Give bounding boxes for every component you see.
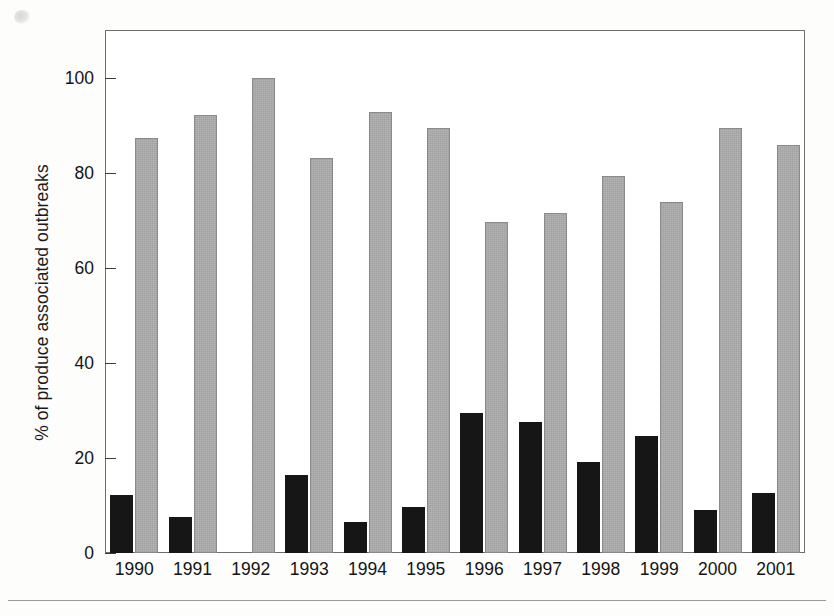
bar-light-2000 bbox=[719, 128, 742, 553]
bar-dark-1996 bbox=[460, 413, 483, 553]
bar-light-1992 bbox=[252, 78, 275, 553]
x-axis-label-1993: 1993 bbox=[277, 559, 341, 580]
x-axis-label-1999: 1999 bbox=[627, 559, 691, 580]
page-divider-rule bbox=[8, 600, 826, 601]
bar-dark-2000 bbox=[694, 510, 717, 553]
bar-light-1995 bbox=[427, 128, 450, 553]
x-axis-label-2000: 2000 bbox=[686, 559, 750, 580]
bar-light-1996 bbox=[485, 222, 508, 553]
bar-dark-1999 bbox=[635, 436, 658, 553]
bar-dark-1991 bbox=[169, 517, 192, 553]
bar-dark-1994 bbox=[344, 522, 367, 553]
bar-light-1990 bbox=[135, 138, 158, 553]
bar-light-1997 bbox=[544, 213, 567, 553]
bar-light-1991 bbox=[194, 115, 217, 553]
bar-chart-figure: % of produce associated outbreaks 020406… bbox=[0, 0, 834, 616]
bar-dark-1993 bbox=[285, 475, 308, 553]
bar-light-1993 bbox=[310, 158, 333, 553]
bar-light-1994 bbox=[369, 112, 392, 553]
bar-dark-1998 bbox=[577, 462, 600, 553]
bar-dark-1997 bbox=[519, 422, 542, 553]
x-axis-label-1994: 1994 bbox=[336, 559, 400, 580]
bar-light-1998 bbox=[602, 176, 625, 553]
bar-light-2001 bbox=[777, 145, 800, 553]
bars-layer bbox=[0, 0, 834, 616]
x-axis-label-1996: 1996 bbox=[452, 559, 516, 580]
x-axis-label-2001: 2001 bbox=[744, 559, 808, 580]
x-axis-label-1992: 1992 bbox=[219, 559, 283, 580]
x-axis-label-1990: 1990 bbox=[102, 559, 166, 580]
x-axis-label-1997: 1997 bbox=[511, 559, 575, 580]
bar-dark-2001 bbox=[752, 493, 775, 553]
bar-light-1999 bbox=[660, 202, 683, 554]
x-axis-label-1998: 1998 bbox=[569, 559, 633, 580]
x-axis-label-1991: 1991 bbox=[161, 559, 225, 580]
bar-dark-1995 bbox=[402, 507, 425, 553]
bar-dark-1990 bbox=[110, 495, 133, 553]
x-axis-label-1995: 1995 bbox=[394, 559, 458, 580]
